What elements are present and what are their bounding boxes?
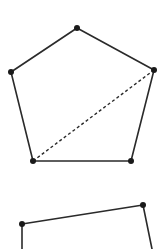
partial-polygon (19, 202, 152, 249)
polygon-edge (143, 205, 152, 249)
diagram-canvas (0, 0, 167, 249)
vertex-point-right (151, 67, 157, 73)
vertex-point-bottom-right (128, 158, 134, 164)
vertex-point-top (74, 25, 80, 31)
pentagon (8, 25, 157, 164)
geometry-diagram (0, 0, 167, 249)
pentagon-outline (11, 28, 154, 161)
vertex-point-left (8, 69, 14, 75)
polygon-edge (22, 205, 143, 224)
vertex-point-left (19, 221, 25, 227)
vertex-point-bottom-left (30, 158, 36, 164)
dashed-diagonal (33, 70, 154, 161)
vertex-point-right (140, 202, 146, 208)
